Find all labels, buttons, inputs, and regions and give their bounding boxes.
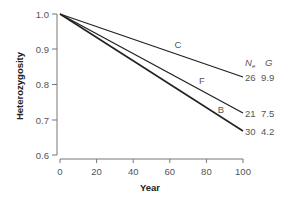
x-tick-label: 0: [57, 166, 62, 177]
g-header: G: [265, 57, 272, 68]
series-lines: [60, 14, 243, 131]
y-tick-label: 0.6: [36, 150, 49, 161]
end-table-header: Ne G: [245, 57, 272, 69]
g-value-b: 4.2: [261, 126, 274, 137]
heterozygosity-chart: 1.0 0.9 0.8 0.7 0.6 Heterozygosity 0 20 …: [0, 0, 288, 201]
ne-value-c: 26: [245, 72, 256, 83]
y-tick-label: 0.9: [36, 44, 49, 55]
x-axis-title: Year: [140, 182, 160, 193]
g-value-c: 9.9: [261, 72, 274, 83]
series-line-b: [60, 14, 243, 131]
series-line-c: [60, 14, 243, 77]
series-label-f: F: [199, 75, 205, 86]
ne-value-f: 21: [245, 108, 256, 119]
g-value-f: 7.5: [261, 108, 274, 119]
x-tick-label: 60: [165, 166, 176, 177]
series-label-c: C: [175, 39, 182, 50]
x-tick-label: 40: [128, 166, 139, 177]
y-axis: 1.0 0.9 0.8 0.7 0.6 Heterozygosity: [14, 9, 57, 161]
x-tick-label: 80: [201, 166, 212, 177]
series-line-f: [60, 14, 243, 113]
ne-value-b: 30: [245, 126, 256, 137]
series-label-b: B: [218, 104, 224, 115]
y-tick-label: 1.0: [36, 9, 49, 20]
end-labels: 26 9.9 21 7.5 30 4.2: [245, 72, 274, 137]
y-axis-title: Heterozygosity: [14, 51, 25, 120]
x-axis: 0 20 40 60 80 100 Year: [57, 159, 251, 193]
y-tick-label: 0.8: [36, 79, 49, 90]
y-tick-label: 0.7: [36, 115, 49, 126]
ne-header: Ne: [245, 57, 256, 69]
x-tick-label: 20: [91, 166, 102, 177]
x-tick-label: 100: [235, 166, 251, 177]
